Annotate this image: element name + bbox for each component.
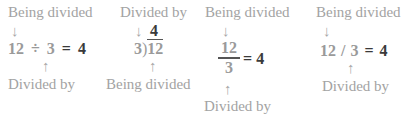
equation: 12 / 3 = 4 bbox=[320, 42, 388, 60]
label-being-divided: Being divided bbox=[106, 76, 191, 93]
quotient: 4 bbox=[256, 50, 264, 67]
arrow-up-icon: ↑ bbox=[347, 61, 355, 76]
divisor: 3 bbox=[350, 42, 358, 59]
arrow-up-icon: ↑ bbox=[42, 59, 50, 74]
divisor: 3 bbox=[134, 40, 142, 57]
label-being-divided: Being divided bbox=[205, 4, 290, 21]
arrow-down-icon: ↓ bbox=[323, 24, 331, 39]
label-divided-by: Divided by bbox=[8, 76, 75, 93]
long-division-bracket: 3)12 bbox=[134, 40, 163, 58]
quotient: 4 bbox=[380, 42, 388, 59]
dividend: 12 bbox=[8, 40, 24, 57]
label-divided-by: Divided by bbox=[120, 4, 187, 21]
arrow-up-icon: ↑ bbox=[149, 59, 157, 74]
equation: 12 ÷ 3 = 4 bbox=[8, 40, 86, 58]
operator: ÷ bbox=[31, 40, 40, 57]
numerator: 12 bbox=[218, 40, 240, 56]
label-divided-by: Divided by bbox=[322, 78, 389, 95]
arrow-down-icon: ↓ bbox=[222, 24, 230, 39]
result: = 4 bbox=[243, 50, 264, 68]
equals-sign: = bbox=[243, 50, 252, 67]
divisor: 3 bbox=[47, 40, 55, 57]
fraction: 12 3 bbox=[218, 40, 240, 76]
label-divided-by: Divided by bbox=[204, 98, 271, 115]
denominator: 3 bbox=[218, 60, 240, 76]
arrow-up-icon: ↑ bbox=[224, 82, 232, 97]
arrow-down-icon: ↓ bbox=[11, 24, 19, 39]
quotient: 4 bbox=[78, 40, 86, 57]
equals-sign: = bbox=[62, 40, 71, 57]
label-being-divided: Being divided bbox=[316, 4, 401, 21]
operator: / bbox=[341, 42, 345, 59]
dividend: 12 bbox=[320, 42, 336, 59]
quotient: 4 bbox=[150, 22, 158, 40]
label-being-divided: Being divided bbox=[8, 4, 93, 21]
equals-sign: = bbox=[364, 42, 373, 59]
dividend: 12 bbox=[147, 39, 163, 57]
arrow-down-icon: ↓ bbox=[135, 24, 143, 39]
